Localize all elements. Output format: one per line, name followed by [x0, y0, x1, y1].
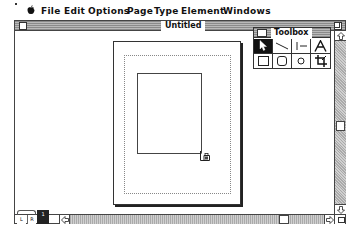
scroll-up-button[interactable] — [335, 31, 346, 41]
crop-icon — [315, 55, 327, 67]
scroll-down-button[interactable] — [335, 204, 346, 214]
toolbox-title-bar[interactable]: Toolbox — [254, 28, 330, 38]
pointer-tool[interactable] — [254, 39, 273, 54]
arrow-left-icon — [61, 216, 69, 224]
frame-link-handle[interactable] — [200, 151, 210, 161]
square-icon — [258, 56, 269, 66]
link-handle-icon — [200, 151, 210, 161]
size-box[interactable] — [334, 215, 345, 224]
apple-menu[interactable] — [27, 5, 35, 17]
toolbox-palette: Toolbox — [253, 27, 331, 69]
page-navigator: L R 1 — [15, 210, 59, 225]
horizontal-scrollbar[interactable] — [59, 215, 334, 224]
apple-icon — [27, 5, 35, 15]
rounded-square-icon — [277, 56, 287, 66]
menu-file[interactable]: File — [41, 6, 61, 16]
menu-windows[interactable]: Windows — [223, 6, 271, 16]
tool-grid — [254, 39, 330, 68]
cursor-mark — [15, 3, 17, 5]
arrow-right-icon — [326, 216, 334, 224]
diagonal-line-icon — [275, 41, 289, 51]
zoom-box[interactable] — [334, 22, 342, 30]
menu-bar: File Edit Options Page Type Element Wind… — [0, 0, 360, 18]
circle-icon — [297, 57, 305, 65]
text-frame[interactable] — [137, 73, 202, 154]
menu-edit[interactable]: Edit — [64, 6, 85, 16]
toolbox-close-box[interactable] — [257, 29, 267, 37]
bottom-bar: L R 1 — [15, 214, 345, 224]
letter-a-icon — [314, 40, 327, 52]
rectangle-tool[interactable] — [254, 54, 273, 69]
scroll-right-button[interactable] — [324, 215, 334, 224]
menu-type[interactable]: Type — [154, 6, 179, 16]
right-master-page-icon[interactable]: R — [27, 215, 36, 224]
arrow-pointer-icon — [259, 40, 268, 51]
text-tool[interactable] — [311, 39, 330, 54]
vertical-scrollbar[interactable] — [334, 31, 346, 214]
document-page — [113, 41, 241, 205]
arrow-down-icon — [337, 206, 345, 214]
arrow-up-icon — [337, 32, 345, 40]
menu-options[interactable]: Options — [88, 6, 130, 16]
menu-element[interactable]: Element — [181, 6, 225, 16]
scroll-left-button[interactable] — [60, 215, 70, 224]
rounded-rectangle-tool[interactable] — [273, 54, 292, 69]
crop-tool[interactable] — [311, 54, 330, 69]
current-page-icon[interactable]: 1 — [37, 210, 49, 224]
perpendicular-line-icon — [294, 41, 308, 51]
oval-tool[interactable] — [292, 54, 311, 69]
window-title: Untitled — [161, 21, 205, 31]
diagonal-line-tool[interactable] — [273, 39, 292, 54]
left-master-page-icon[interactable]: L — [17, 215, 26, 224]
vertical-scroll-thumb[interactable] — [336, 121, 345, 131]
toolbox-title: Toolbox — [271, 28, 312, 38]
menu-page[interactable]: Page — [127, 6, 153, 16]
horizontal-scroll-thumb[interactable] — [279, 215, 289, 224]
perpendicular-line-tool[interactable] — [292, 39, 311, 54]
close-box[interactable] — [19, 22, 27, 30]
